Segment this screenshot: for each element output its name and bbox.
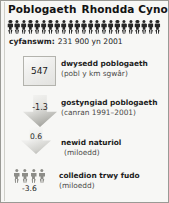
natural-change-value: 0.6 xyxy=(21,132,51,141)
population-decrease-label-line1: gostyngiad poblogaeth xyxy=(61,98,167,108)
person-icon xyxy=(141,20,148,34)
migration-label: colledion trwy fudo (miloedd) xyxy=(59,171,167,190)
title-place: Rhondda Cynon Taf xyxy=(76,3,169,15)
person-icon xyxy=(20,20,27,34)
density-label-line2: (pobl y km sgwâr) xyxy=(61,69,167,79)
migration-label-line2: (miloedd) xyxy=(59,181,167,191)
person-icon xyxy=(74,20,81,34)
natural-change-label-line1: newid naturiol xyxy=(61,138,167,148)
density-label-line1: dwysedd poblogaeth xyxy=(61,59,167,69)
page-title: PoblogaethRhondda Cynon Taf xyxy=(8,3,169,15)
person-icon xyxy=(81,20,88,34)
person-icon xyxy=(87,20,94,34)
person-icon xyxy=(47,20,54,34)
total-population-pictogram xyxy=(7,19,167,34)
person-icon xyxy=(30,169,37,183)
title-topic: Poblogaeth xyxy=(8,3,76,15)
arrow-down-icon: -1.3 xyxy=(23,95,57,127)
person-icon xyxy=(67,20,74,34)
arrow-down-icon: 0.6 xyxy=(21,127,51,154)
person-icon xyxy=(14,20,21,34)
migration-label-line1: colledion trwy fudo xyxy=(59,171,167,181)
total-population-caption: cyfanswm:231 900 yn 2001 xyxy=(9,37,123,46)
person-icon xyxy=(54,20,61,34)
natural-change-label: newid naturiol(miloedd) xyxy=(61,138,167,157)
person-icon xyxy=(107,20,114,34)
total-label: cyfanswm: xyxy=(9,37,55,46)
person-icon xyxy=(147,20,154,34)
person-icon xyxy=(34,20,41,34)
person-icon xyxy=(94,20,101,34)
person-icon xyxy=(101,20,108,34)
person-icon xyxy=(40,20,47,34)
person-icon xyxy=(121,20,128,34)
person-icon xyxy=(22,169,29,183)
population-decrease-label: gostyngiad poblogaeth (canran 1991–2001) xyxy=(61,98,167,117)
population-infographic-panel: PoblogaethRhondda Cynon Taf cyfanswm:231… xyxy=(0,0,169,203)
density-value: 547 xyxy=(31,66,48,76)
natural-change-unit: (miloedd) xyxy=(61,148,100,157)
population-decrease-label-line2: (canran 1991–2001) xyxy=(61,108,167,118)
total-value: 231 900 yn 2001 xyxy=(55,37,123,46)
person-icon xyxy=(27,20,34,34)
person-icon xyxy=(13,169,20,183)
density-swatch: 547 xyxy=(23,56,56,86)
person-icon xyxy=(39,169,46,183)
person-icon xyxy=(154,20,161,34)
person-icon xyxy=(134,20,141,34)
person-icon xyxy=(7,20,14,34)
person-icon xyxy=(61,20,68,34)
person-icon xyxy=(114,20,121,34)
density-label: dwysedd poblogaeth (pobl y km sgwâr) xyxy=(61,59,167,78)
migration-value: -3.6 xyxy=(22,184,37,193)
person-icon xyxy=(127,20,134,34)
population-decrease-value: -1.3 xyxy=(23,103,57,112)
migration-pictogram: -3.6 xyxy=(13,169,53,189)
